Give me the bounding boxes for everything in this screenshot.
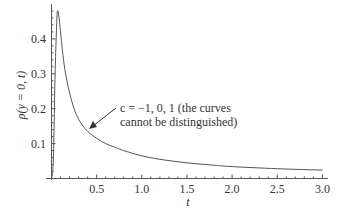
x-tick-label: 1.0 [134,182,149,196]
y-axis-label: ρ(y = 0, t) [14,71,28,121]
data-series-line [52,11,323,179]
tick-marks [52,11,323,179]
x-tick-label: 2.5 [270,182,285,196]
x-tick-label: 2.0 [225,182,240,196]
y-tick-label: 0.2 [31,102,46,116]
x-tick-label: 3.0 [315,182,330,196]
x-axis-label: t [186,195,190,209]
line-chart: 0.51.01.52.02.53.00.10.20.30.4 t ρ(y = 0… [0,0,341,216]
annotation: c = −1, 0, 1 (the curves cannot be disti… [89,101,237,129]
y-tick-label: 0.3 [31,67,46,81]
x-tick-label: 1.5 [179,182,194,196]
y-tick-label: 0.1 [31,137,46,151]
arrow-icon [89,108,116,129]
annotation-line-1: c = −1, 0, 1 (the curves [120,101,231,115]
annotation-line-2: cannot be distinguished) [120,115,237,129]
y-tick-label: 0.4 [31,32,46,46]
axes [46,4,328,180]
x-tick-label: 0.5 [89,182,104,196]
